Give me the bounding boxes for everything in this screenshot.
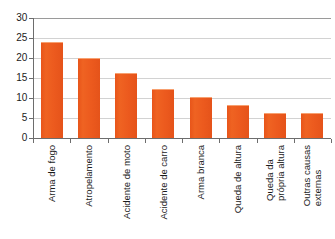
- category-label-7: Outras causasexternas: [301, 145, 323, 206]
- y-tick-label-0: 0: [22, 133, 27, 143]
- category-label-line: Acidente de moto: [121, 145, 132, 219]
- x-tick-mark-8: [331, 139, 332, 143]
- category-label-line: Outras causas: [301, 145, 312, 206]
- bar: [115, 73, 137, 138]
- bar: [41, 42, 63, 138]
- y-tick-label-5: 5: [22, 113, 27, 123]
- bar: [78, 58, 100, 138]
- y-tick-label-25: 25: [16, 33, 27, 43]
- bar-chart: 051015202530 Arma de fogoAtropelamentoAc…: [0, 0, 335, 239]
- x-tick-mark-6: [257, 139, 258, 143]
- category-label-line: Arma branca: [195, 145, 206, 199]
- x-tick-mark-7: [294, 139, 295, 143]
- y-axis-tick-labels: 051015202530: [0, 0, 27, 239]
- x-tick-mark-3: [145, 139, 146, 143]
- x-tick-mark-5: [219, 139, 220, 143]
- x-tick-mark-2: [108, 139, 109, 143]
- category-label-3: Acidente de carro: [158, 145, 169, 219]
- x-tick-mark-0: [33, 139, 34, 143]
- category-label-4: Arma branca: [195, 145, 206, 199]
- y-tick-label-20: 20: [16, 53, 27, 63]
- y-tick-label-30: 30: [16, 13, 27, 23]
- bar-series: [33, 18, 331, 138]
- bar: [301, 113, 323, 138]
- category-label-6: Queda daprópria altura: [264, 145, 286, 201]
- y-tick-label-15: 15: [16, 73, 27, 83]
- bar: [227, 105, 249, 138]
- category-label-line: Queda da: [264, 145, 275, 201]
- category-label-line: Arma de fogo: [46, 145, 57, 202]
- category-label-line: externas: [312, 145, 323, 206]
- category-label-line: Atropelamento: [83, 145, 94, 207]
- category-label-line: Acidente de carro: [158, 145, 169, 219]
- y-tick-label-10: 10: [16, 93, 27, 103]
- category-label-line: Queda de altura: [232, 145, 243, 213]
- x-tick-mark-4: [182, 139, 183, 143]
- category-label-line: própria altura: [275, 145, 286, 201]
- category-label-0: Arma de fogo: [46, 145, 57, 202]
- category-label-1: Atropelamento: [83, 145, 94, 207]
- category-label-5: Queda de altura: [232, 145, 243, 213]
- x-tick-mark-1: [70, 139, 71, 143]
- bar: [264, 113, 286, 138]
- bar: [190, 97, 212, 138]
- bar: [152, 89, 174, 138]
- category-label-2: Acidente de moto: [121, 145, 132, 219]
